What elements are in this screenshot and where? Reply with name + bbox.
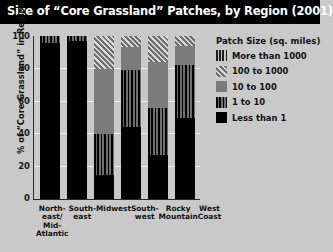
x-axis-label-line: Mountain [159,213,198,221]
legend-item[interactable]: 100 to 1000 [216,66,318,77]
title-bar: Size of “Core Grassland” Patches, by Reg… [0,0,320,24]
bar-segment[interactable] [67,41,87,199]
x-axis-label: RockyMountain [159,203,198,249]
bar-column [64,36,91,199]
legend-item-label: 10 to 100 [232,82,277,92]
chart-title: Size of “Core Grassland” Patches, by Reg… [7,4,333,18]
bar-segment[interactable] [148,155,168,199]
bar-segment[interactable] [175,46,195,66]
bar-column [171,36,198,199]
bar-segment[interactable] [175,118,195,200]
bar-segment[interactable] [94,134,114,175]
stacked-bar[interactable] [67,36,87,199]
stacked-bar[interactable] [40,36,60,199]
x-axis-label: WestCoast [198,203,221,249]
y-axis-label: % of “Core Grassland” in Region [16,4,26,154]
legend-item[interactable]: 10 to 100 [216,81,318,92]
legend-item[interactable]: Less than 1 [216,112,318,123]
stacked-bar[interactable] [148,36,168,199]
legend-swatch-icon [216,50,227,61]
legend-title: Patch Size (sq. miles) [216,36,318,46]
legend-swatch-icon [216,112,227,123]
stacked-bar[interactable] [121,36,141,199]
legend-item-label: 100 to 1000 [232,66,288,76]
x-axis-label-line: Coast [198,213,221,221]
bar-segment[interactable] [94,175,114,199]
bar-segment[interactable] [121,127,141,199]
bar-segment[interactable] [94,36,114,69]
x-axis-label: Midwest [96,203,131,249]
x-axis-label-line: east [68,213,96,221]
x-axis-label-line: Midwest [96,205,131,213]
x-axis-labels: North-east/Mid-AtlanticSouth-eastMidwest… [33,203,200,249]
x-axis-label: South-east [68,203,96,249]
legend-item-label: More than 1000 [232,51,307,61]
bar-segment[interactable] [121,47,141,70]
y-tick-20: 20 [6,161,30,171]
legend-swatch-icon [216,97,227,108]
bar-group [34,36,200,199]
bar-segment[interactable] [121,70,141,127]
bar-column [91,36,118,199]
bar-segment[interactable] [175,36,195,46]
bar-segment[interactable] [121,36,141,47]
x-axis-label: North-east/Mid-Atlantic [36,203,68,249]
bar-column [144,36,171,199]
x-axis-label-line: west [131,213,159,221]
bar-segment[interactable] [40,43,60,199]
legend-item[interactable]: More than 1000 [216,50,318,61]
bar-segment[interactable] [148,108,168,155]
legend-item-label: Less than 1 [232,113,286,123]
legend-swatch-icon [216,81,227,92]
y-tick-0: 0 [6,193,30,203]
legend-item[interactable]: 1 to 10 [216,97,318,108]
stacked-bar[interactable] [175,36,195,199]
bar-column [37,36,64,199]
bar-segment[interactable] [175,65,195,117]
legend-item-label: 1 to 10 [232,97,265,107]
x-axis-label: South-west [131,203,159,249]
stacked-bar[interactable] [94,36,114,199]
plot-area [33,36,200,200]
bar-segment[interactable] [148,62,168,108]
x-axis-label-line: Atlantic [36,230,68,238]
bar-column [117,36,144,199]
bar-segment[interactable] [148,36,168,62]
legend: Patch Size (sq. miles) More than 1000100… [216,36,318,128]
bar-segment[interactable] [94,69,114,134]
legend-swatch-icon [216,66,227,77]
